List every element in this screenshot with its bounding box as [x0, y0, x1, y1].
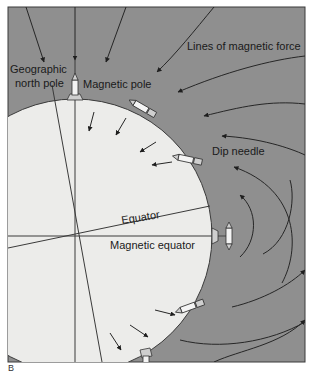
- label-dip-needle: Dip needle: [212, 145, 265, 157]
- label-magnetic-pole: Magnetic pole: [83, 78, 152, 90]
- label-geographic-north-pole-1: Geographic: [10, 63, 67, 75]
- label-magnetic-equator: Magnetic equator: [110, 239, 195, 251]
- label-lines-of-magnetic-force: Lines of magnetic force: [187, 40, 301, 52]
- panel-letter: B: [8, 363, 14, 372]
- magnetic-field-diagram: Geographic north pole Magnetic pole Line…: [0, 0, 311, 372]
- label-geographic-north-pole-2: north pole: [15, 77, 64, 89]
